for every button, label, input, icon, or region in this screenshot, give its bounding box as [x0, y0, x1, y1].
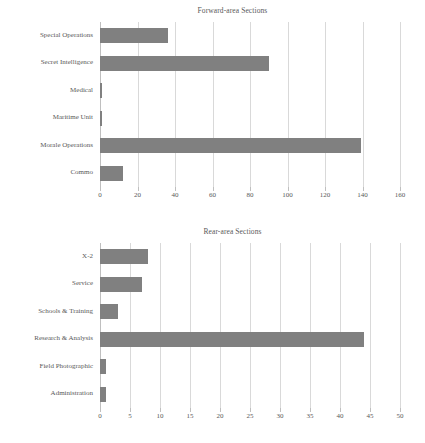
tick-label: 60 — [209, 191, 216, 199]
bar[interactable] — [100, 56, 269, 71]
bar-row — [100, 353, 400, 381]
bar[interactable] — [100, 83, 102, 98]
bar-row — [100, 77, 400, 105]
bar-row — [100, 381, 400, 409]
category-label: Secret Intelligence — [0, 50, 96, 78]
tick-label: 20 — [134, 191, 141, 199]
category-label: Medical — [0, 77, 96, 105]
bar[interactable] — [100, 166, 123, 181]
chart-title: Rear-area Sections — [0, 227, 425, 236]
chart-page: Forward-area Sections Special Operations… — [0, 0, 425, 443]
tick-label: 140 — [357, 191, 368, 199]
tick-label: 10 — [157, 412, 164, 420]
bar[interactable] — [100, 111, 102, 126]
tick-label: 80 — [247, 191, 254, 199]
category-label: Special Operations — [0, 22, 96, 50]
tick-label: 40 — [337, 412, 344, 420]
plot-area — [100, 22, 400, 187]
chart-title: Forward-area Sections — [0, 6, 425, 15]
plot-area — [100, 243, 400, 408]
tick-label: 25 — [247, 412, 254, 420]
tick-label: 5 — [128, 412, 132, 420]
bar[interactable] — [100, 332, 364, 347]
bar-row — [100, 105, 400, 133]
tick-label: 120 — [320, 191, 331, 199]
category-label: Administration — [0, 381, 96, 409]
bar-row — [100, 160, 400, 188]
gridline — [400, 22, 401, 187]
bar-row — [100, 132, 400, 160]
bar-row — [100, 271, 400, 299]
tick-label: 20 — [217, 412, 224, 420]
tick-label: 0 — [98, 412, 102, 420]
category-label: Field Photographic — [0, 353, 96, 381]
tick-label: 160 — [395, 191, 406, 199]
category-label: Schools & Training — [0, 298, 96, 326]
bar[interactable] — [100, 277, 142, 292]
bar[interactable] — [100, 249, 148, 264]
bar[interactable] — [100, 138, 361, 153]
tick-label: 100 — [282, 191, 293, 199]
tick-label: 15 — [187, 412, 194, 420]
category-label: Maritime Unit — [0, 105, 96, 133]
bar-row — [100, 243, 400, 271]
category-label: Research & Analysis — [0, 326, 96, 354]
tick-label: 40 — [172, 191, 179, 199]
tick-label: 30 — [277, 412, 284, 420]
category-label: X-2 — [0, 243, 96, 271]
tick-label: 45 — [367, 412, 374, 420]
bar[interactable] — [100, 28, 168, 43]
category-label: Morale Operations — [0, 132, 96, 160]
gridline — [400, 243, 401, 408]
bar-row — [100, 22, 400, 50]
bar-row — [100, 50, 400, 78]
x-axis-tick-labels: 020406080100120140160 — [100, 191, 400, 205]
x-axis-tick-labels: 05101520253035404550 — [100, 412, 400, 426]
bar[interactable] — [100, 359, 106, 374]
tick-label: 50 — [397, 412, 404, 420]
bar-row — [100, 326, 400, 354]
bar[interactable] — [100, 387, 106, 402]
y-axis-category-labels: X-2 Service Schools & Training Research … — [0, 243, 96, 408]
bar[interactable] — [100, 304, 118, 319]
y-axis-category-labels: Special Operations Secret Intelligence M… — [0, 22, 96, 187]
bar-row — [100, 298, 400, 326]
bars-container — [100, 22, 400, 187]
chart-forward-area-sections: Forward-area Sections Special Operations… — [0, 0, 425, 221]
chart-rear-area-sections: Rear-area Sections X-2 Service Schools &… — [0, 221, 425, 442]
category-label: Service — [0, 271, 96, 299]
tick-label: 0 — [98, 191, 102, 199]
tick-label: 35 — [307, 412, 314, 420]
bars-container — [100, 243, 400, 408]
category-label: Commo — [0, 160, 96, 188]
